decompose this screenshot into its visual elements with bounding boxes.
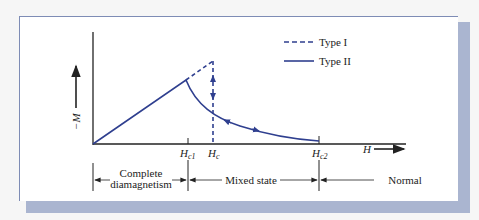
legend: Type I Type II xyxy=(284,36,351,67)
svg-text:H: H xyxy=(362,143,372,155)
magnetization-chart: −M Type I Type II Hc1 Hc Hc2 H Complete … xyxy=(0,0,479,220)
type1-dashed-rise xyxy=(186,61,213,80)
label-hc: Hc xyxy=(207,147,220,161)
svg-text:Type I: Type I xyxy=(319,36,348,48)
y-axis-label: −M xyxy=(70,66,82,130)
label-hc2: Hc2 xyxy=(311,147,328,161)
region-label-normal: Normal xyxy=(388,174,422,186)
svg-text:−M: −M xyxy=(70,113,82,130)
region-label-mixed: Mixed state xyxy=(225,174,277,186)
region-label-diamagnetism: diamagnetism xyxy=(110,178,172,190)
type2-curve xyxy=(93,80,319,144)
svg-text:Type II: Type II xyxy=(319,55,351,67)
x-axis-label: H xyxy=(362,143,404,155)
label-hc1: Hc1 xyxy=(179,147,196,161)
